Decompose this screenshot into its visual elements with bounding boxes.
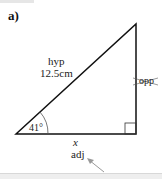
hyp-value: 12.5cm [40,67,73,79]
bottom-band [0,173,162,179]
right-angle-marker [125,123,136,134]
opp-label: opp [139,75,154,86]
angle-label: 41° [29,122,43,133]
adj-variable: x [73,136,78,148]
hyp-label: hyp [48,55,65,67]
triangle [16,24,136,134]
adj-label: adj [71,148,84,160]
